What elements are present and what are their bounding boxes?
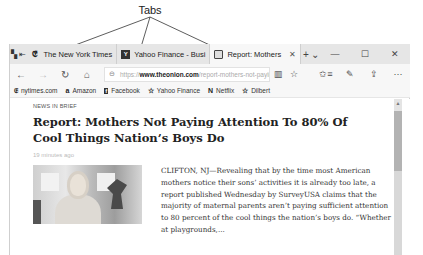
maximize-button[interactable]: ☐	[350, 49, 380, 59]
lock-icon: ⊖	[109, 70, 115, 78]
address-bar[interactable]: ⊖ https:// www.theonion.com /report-moth…	[104, 67, 270, 82]
favorites-hub-icon[interactable]: ✩≡	[314, 69, 338, 79]
article-kicker[interactable]: NEWS IN BRIEF	[33, 103, 77, 109]
address-bar-actions: ▥ ☆	[270, 69, 302, 79]
facebook-icon: f	[104, 88, 108, 94]
favorite-label: Facebook	[111, 87, 140, 94]
favorite-amazon[interactable]: a Amazon	[65, 87, 96, 94]
favorites-bar: 𝔈 nytimes.com a Amazon f Facebook ☆ Yaho…	[10, 84, 410, 98]
favorite-yahoo-finance[interactable]: ☆ Yahoo Finance	[148, 87, 200, 95]
tab-report-mothers[interactable]: Report: Mothers ✕	[210, 44, 301, 64]
favorite-dilbert[interactable]: ☆ Dilbert	[242, 87, 270, 95]
toolbar-right: ✩≡ ✎ ⇪ ···	[314, 69, 410, 79]
scrollbar-track[interactable]	[394, 171, 402, 255]
star-icon: ☆	[148, 87, 154, 95]
yahoo-favicon-icon: Y	[121, 50, 130, 59]
article-thumbnail[interactable]	[33, 165, 142, 224]
article-headline[interactable]: Report: Mothers Not Paying Attention To …	[33, 114, 378, 146]
tabs-callout-lines	[0, 0, 423, 50]
tabs-callout-label: Tabs	[130, 4, 170, 16]
home-button[interactable]: ⌂	[76, 69, 98, 80]
tab-preview-icon[interactable]: ▚	[10, 44, 18, 64]
star-icon: ☆	[242, 87, 248, 95]
window-controls: — ☐ ✕	[320, 49, 410, 59]
favorite-netflix[interactable]: N Netflix	[208, 87, 234, 94]
reading-view-icon[interactable]: ▥	[270, 69, 286, 79]
favorite-label: Amazon	[72, 87, 96, 94]
scrollbar-thumb[interactable]	[394, 111, 402, 171]
refresh-button[interactable]: ↻	[54, 69, 76, 80]
url-protocol: https://	[120, 71, 140, 78]
back-button[interactable]: ←	[10, 69, 32, 80]
favorite-label: Netflix	[216, 87, 234, 94]
favorite-label: nytimes.com	[21, 87, 57, 94]
tab-list-chevron-down-icon[interactable]: ⌄	[311, 49, 320, 60]
forward-button[interactable]: →	[32, 69, 54, 80]
web-notes-pen-icon[interactable]: ✎	[338, 69, 362, 79]
article-excerpt: CLIFTON, NJ—Revealing that by the time m…	[161, 165, 391, 236]
onion-favicon-icon	[214, 50, 223, 59]
nytimes-icon: 𝔈	[14, 87, 18, 95]
browser-window: ▚ ⇤ 𝔈 The New York Times Y Yahoo Finance…	[9, 44, 410, 255]
amazon-icon: a	[65, 87, 69, 94]
vertical-scrollbar[interactable]: ▲	[394, 99, 402, 255]
close-window-button[interactable]: ✕	[380, 49, 410, 59]
tab-yahoo-finance[interactable]: Y Yahoo Finance - Busi	[117, 44, 210, 64]
tab-title: Report: Mothers	[227, 50, 281, 59]
favorite-nytimes[interactable]: 𝔈 nytimes.com	[14, 87, 57, 95]
netflix-icon: N	[208, 87, 213, 94]
tab-nytimes[interactable]: 𝔈 The New York Times	[26, 44, 117, 64]
set-aside-tabs-icon[interactable]: ⇤	[18, 44, 26, 64]
share-icon[interactable]: ⇪	[362, 69, 386, 79]
navigation-bar: ← → ↻ ⌂ ⊖ https:// www.theonion.com /rep…	[10, 64, 410, 84]
url-path: /report-mothers-not-payin	[199, 71, 270, 78]
close-tab-icon[interactable]: ✕	[289, 50, 296, 59]
tab-title: Yahoo Finance - Busi	[134, 50, 205, 59]
new-tab-button[interactable]: +	[301, 49, 310, 60]
url-host: www.theonion.com	[140, 71, 199, 78]
favorite-star-icon[interactable]: ☆	[286, 69, 302, 79]
page-content: NEWS IN BRIEF Report: Mothers Not Paying…	[10, 99, 410, 255]
article-timestamp: 19 minutes ago	[33, 152, 74, 158]
more-menu-icon[interactable]: ···	[386, 69, 410, 79]
scroll-up-arrow-icon[interactable]: ▲	[394, 99, 402, 107]
favorite-label: Yahoo Finance	[157, 87, 200, 94]
minimize-button[interactable]: —	[320, 49, 350, 59]
favorite-label: Dilbert	[251, 87, 270, 94]
tab-title: The New York Times	[43, 50, 112, 59]
nytimes-favicon-icon: 𝔈	[30, 50, 39, 59]
tab-bar: ▚ ⇤ 𝔈 The New York Times Y Yahoo Finance…	[10, 44, 410, 64]
favorite-facebook[interactable]: f Facebook	[104, 87, 140, 94]
